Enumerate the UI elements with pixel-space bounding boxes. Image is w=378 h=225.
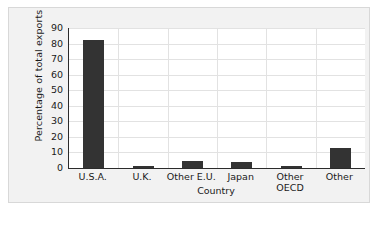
y-axis-tick-label: 90 [41,23,63,33]
y-axis-tick-label: 0 [41,163,63,173]
y-axis-tick-label: 50 [41,85,63,95]
y-axis-tick-label: 30 [41,117,63,127]
plot-area [68,28,365,169]
bar [330,148,351,168]
bar [182,161,203,168]
bar [133,166,154,168]
chart-figure-panel: Percentage of total exports 010203040506… [8,7,370,203]
x-axis-tick-label: Other [326,171,353,182]
x-axis-title: Country [68,185,364,196]
y-axis-tick-label: 10 [41,148,63,158]
y-axis-tick-label: 20 [41,132,63,142]
bar [83,40,104,168]
y-axis-tick-label: 70 [41,54,63,64]
y-axis-tick-labels: 0102030405060708090 [41,28,63,168]
x-axis-tick-label: U.S.A. [78,171,106,182]
x-axis-tick-label: Japan [227,171,254,182]
y-axis-tick-label: 40 [41,101,63,111]
bar-series [69,28,365,168]
y-axis-tick-label: 60 [41,70,63,80]
bar [231,162,252,168]
x-axis-tick-label: U.K. [132,171,151,182]
bar [281,166,302,168]
x-axis-tick-label: Other E.U. [167,171,216,182]
y-axis-tick-label: 80 [41,39,63,49]
